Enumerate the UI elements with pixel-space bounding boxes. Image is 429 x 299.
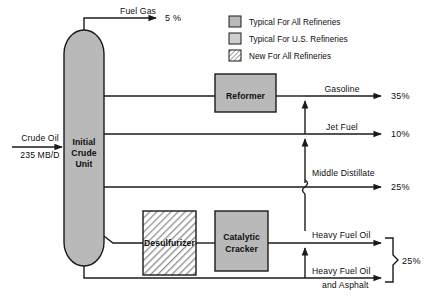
jetfuel-riser-line [303,139,308,231]
vessel-label-line1: Initial [72,137,95,147]
fuel-gas-percent: 5 % [165,13,181,23]
jet-fuel-label: Jet Fuel [326,122,358,132]
jet-fuel-percent: 10% [391,129,410,139]
grouped-percent-brace: 25% [385,238,421,282]
heavy-fuel-oil-asphalt-label-line1: Heavy Fuel Oil [312,266,370,276]
feed-label-line1: Crude Oil [21,133,59,143]
middle-distillate-percent: 25% [391,182,410,192]
legend-item-new-all[interactable]: New For All Refineries [229,50,331,61]
fuel-gas-label: Fuel Gas [120,6,156,16]
curly-brace-icon [385,238,398,282]
light-gray-swatch [229,33,241,44]
vessel-label-line3: Unit [75,159,92,169]
legend: Typical For All Refineries Typical For U… [229,16,348,61]
catalytic-cracker-label-line2: Cracker [225,244,258,254]
refinery-flow-diagram: Initial Crude Unit Reformer Desulfurizer… [0,0,429,299]
desulfurizer-label: Desulfurizer [144,238,195,248]
hatched-swatch [229,50,241,61]
unit-reformer[interactable]: Reformer [215,74,276,112]
catalytic-cracker-label-line1: Catalytic [223,232,260,242]
legend-label-2: New For All Refineries [249,52,331,61]
vessel-label-line2: Crude [71,148,96,158]
fuel-gas-line [84,18,156,30]
reformer-label: Reformer [226,91,266,101]
heavy-fuel-oil-asphalt-label-line2: and Asphalt [322,280,369,290]
legend-item-typical-all[interactable]: Typical For All Refineries [229,16,340,27]
solid-gray-swatch [229,16,241,27]
unit-desulfurizer[interactable]: Desulfurizer [143,211,196,275]
feed-label-line2: 235 MB/D [20,150,59,160]
gasoline-label: Gasoline [324,84,359,94]
initial-crude-unit-vessel[interactable]: Initial Crude Unit [64,30,104,266]
unit-catalytic-cracker[interactable]: Catalytic Cracker [215,211,268,271]
legend-label-0: Typical For All Refineries [249,18,340,27]
diagram-canvas: Initial Crude Unit Reformer Desulfurizer… [0,0,429,299]
grouped-percent-label: 25% [402,256,421,266]
heavy-fuel-oil-label: Heavy Fuel Oil [312,230,370,240]
gasoil-to-desulfurizer-line [100,233,143,243]
gasoline-percent: 35% [391,91,410,101]
middle-distillate-label: Middle Distillate [312,168,375,178]
legend-item-typical-us[interactable]: Typical For U.S. Refineries [229,33,348,44]
legend-label-1: Typical For U.S. Refineries [249,35,348,44]
